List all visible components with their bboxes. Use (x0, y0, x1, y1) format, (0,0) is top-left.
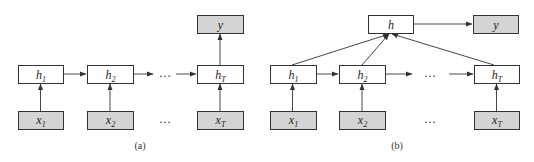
input-subscript: T (497, 120, 502, 129)
hidden-node-h2: h2 (340, 66, 386, 84)
output-node-y: y (198, 16, 244, 34)
hidden-subscript: 2 (364, 75, 368, 84)
input-node-x1: x1 (271, 112, 317, 130)
input-node-x1: x1 (19, 112, 64, 130)
hidden-node-h1: h1 (271, 66, 317, 84)
hidden-node-hT: hT (198, 66, 244, 84)
aggregate-label: h (388, 18, 394, 32)
diagram-a: y h1 h2 hT … x1 x2 xT … (a) (19, 16, 244, 153)
output-node-y: y (474, 16, 519, 34)
hidden-ellipsis: … (159, 66, 171, 80)
input-subscript: 1 (294, 120, 298, 129)
output-label: y (217, 18, 224, 32)
edge-h1-h (292, 34, 389, 65)
input-subscript: 2 (111, 120, 115, 129)
caption-b: (b) (391, 140, 403, 152)
input-ellipsis: … (159, 112, 171, 126)
input-node-x2: x2 (340, 112, 386, 130)
hidden-node-h2: h2 (88, 66, 134, 84)
input-subscript: 1 (42, 120, 46, 129)
aggregate-node-h: h (369, 16, 414, 34)
output-label: y (492, 18, 499, 32)
hidden-subscript: 1 (295, 75, 299, 84)
input-ellipsis: … (424, 112, 436, 126)
hidden-subscript: 2 (112, 75, 116, 84)
input-subscript: T (221, 120, 226, 129)
input-node-xT: xT (475, 112, 520, 130)
hidden-ellipsis: … (424, 66, 436, 80)
caption-a: (a) (134, 140, 145, 152)
hidden-subscript: T (221, 75, 226, 84)
input-node-xT: xT (198, 112, 244, 130)
input-subscript: 2 (363, 120, 367, 129)
rnn-diagrams: y h1 h2 hT … x1 x2 xT … (a) (0, 0, 534, 162)
input-node-x2: x2 (88, 112, 134, 130)
edge-hT-h (392, 34, 494, 65)
hidden-node-hT: hT (475, 66, 520, 84)
hidden-node-h1: h1 (19, 66, 64, 84)
diagram-b: h y h1 h2 hT … x1 x2 (271, 16, 520, 153)
hidden-subscript: T (498, 75, 503, 84)
hidden-subscript: 1 (42, 75, 46, 84)
